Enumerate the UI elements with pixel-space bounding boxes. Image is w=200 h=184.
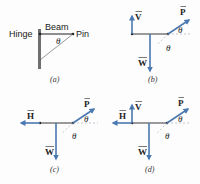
angle-label: θ <box>56 36 61 46</box>
pin-label: Pin <box>76 29 89 39</box>
w-label: W <box>45 147 54 157</box>
hinge-label: Hinge <box>9 29 33 39</box>
h-label: H <box>27 111 34 121</box>
h-label: H <box>119 111 126 121</box>
diagram-canvas: Hinge Beam Pin θ (a) V P W θ θ (b) H P W… <box>0 0 200 184</box>
panel-d: H V P W θ θ (d) <box>113 98 190 175</box>
p-label: P <box>180 7 186 17</box>
caption-d: (d) <box>145 165 155 174</box>
caption-a: (a) <box>50 75 60 84</box>
angle-label-1: θ <box>84 114 89 124</box>
p-label: P <box>178 98 184 108</box>
w-label: W <box>138 147 147 157</box>
p-label: P <box>84 99 90 109</box>
angle-label-2: θ <box>72 131 77 141</box>
v-label: V <box>135 12 142 22</box>
angle-label-2: θ <box>165 131 170 141</box>
panel-c: H P W θ θ (c) <box>21 99 98 175</box>
angle-label-1: θ <box>178 114 183 124</box>
w-label: W <box>138 58 147 68</box>
caption-c: (c) <box>50 165 59 174</box>
beam-label: Beam <box>45 22 69 32</box>
angle-label-1: θ <box>178 25 183 35</box>
caption-b: (b) <box>148 75 158 84</box>
hinge-point <box>39 33 42 36</box>
free-body-diagram-figure: Hinge Beam Pin θ (a) V P W θ θ (b) H P W… <box>0 0 200 184</box>
panel-a: Hinge Beam Pin θ (a) <box>9 22 89 84</box>
angle-label-2: θ <box>166 43 171 53</box>
panel-b: V P W θ θ (b) <box>131 7 191 85</box>
v-label: V <box>135 102 142 112</box>
